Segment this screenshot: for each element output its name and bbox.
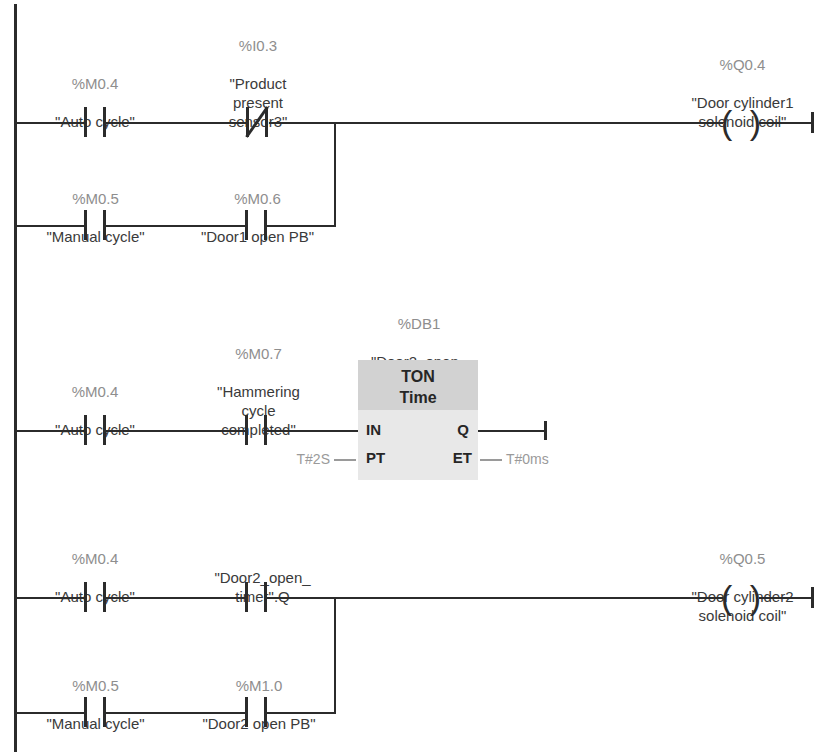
contact-bar-left (84, 107, 87, 137)
contact-address: %M0.5 (28, 189, 163, 208)
ton-et-value: T#0ms (506, 450, 566, 468)
contact-bar-left (245, 210, 248, 240)
contact-no-m06[interactable] (245, 210, 267, 240)
coil-paren-close: ) (750, 580, 761, 614)
rung1-branch-connector (334, 122, 336, 226)
coil-paren-open: ( (721, 580, 732, 614)
coil-q05[interactable]: ( ) (721, 580, 761, 614)
contact-bar-left (84, 210, 87, 240)
contact-no-m04-n3[interactable] (84, 582, 106, 612)
ton-pin-in: IN (366, 421, 381, 439)
ton-pt-value: T#2S (284, 450, 330, 468)
contact-bar-left (245, 415, 248, 445)
rung3-wire-branchnode-to-coil (334, 597, 723, 599)
rung3b-wire-rail-to-c1 (14, 712, 85, 714)
contact-nc-slash-icon (245, 106, 269, 138)
coil-address: %Q0.4 (670, 55, 815, 74)
ton-block-subtitle: Time (358, 387, 478, 408)
contact-no-m04-n2[interactable] (84, 415, 106, 445)
rung3-end-terminator (811, 587, 814, 608)
rung3-wire-c2-to-branchnode (267, 597, 336, 599)
rung3b-wire-c1-to-c2 (105, 712, 247, 714)
rung1-wire-branchnode-to-coil (334, 122, 723, 124)
rung1-wire-rail-to-c1 (14, 122, 85, 124)
contact-bar-left (84, 582, 87, 612)
contact-address: %M1.0 (185, 676, 333, 695)
rung3-wire-c1-to-c2 (105, 597, 247, 599)
rung1b-wire-rail-to-c1 (14, 225, 85, 227)
rung2-wire-q-to-end (478, 430, 546, 432)
rung3-wire-rail-to-c1 (14, 597, 85, 599)
rung1-end-terminator (811, 112, 814, 133)
rung3-branch-connector (334, 597, 336, 713)
ladder-diagram-canvas: %M0.4 "Auto cycle" %I0.3 "Product presen… (0, 0, 826, 756)
rung2-wire-rail-to-c1 (14, 430, 85, 432)
contact-bar-right (103, 582, 106, 612)
contact-address: %M0.6 (185, 189, 330, 208)
contact-no-m07[interactable] (245, 415, 267, 445)
contact-address: %I0.3 (198, 36, 318, 55)
contact-bar-right (264, 582, 267, 612)
coil-paren-open: ( (721, 105, 732, 139)
rung1b-wire-c1-to-c2 (105, 225, 247, 227)
contact-bar-right (264, 415, 267, 445)
contact-bar-left (245, 582, 248, 612)
ton-pt-wire (334, 459, 356, 461)
ton-timer-block[interactable]: TON Time IN PT Q ET (358, 360, 478, 480)
contact-address: %M0.4 (35, 74, 155, 93)
contact-no-m05-n1[interactable] (84, 210, 106, 240)
contact-bar-right (103, 107, 106, 137)
contact-no-m04-n1[interactable] (84, 107, 106, 137)
ton-pin-et: ET (453, 449, 472, 467)
ton-pin-q: Q (457, 421, 469, 439)
contact-bar-left (245, 697, 248, 727)
contact-bar-right (103, 415, 106, 445)
contact-bar-left (84, 415, 87, 445)
contact-no-m10[interactable] (245, 697, 267, 727)
ton-et-wire (480, 459, 502, 461)
contact-address: %M0.4 (35, 549, 155, 568)
rung2-wire-c1-to-c2 (105, 430, 247, 432)
rung3b-wire-c2-to-branchnode (267, 712, 336, 714)
contact-no-timer-q[interactable] (245, 582, 267, 612)
contact-nc-i03[interactable] (246, 107, 268, 137)
rung1-wire-coil-to-end (759, 122, 813, 124)
contact-bar-right (103, 697, 106, 727)
contact-address: %M0.5 (28, 676, 163, 695)
rung2-wire-c2-to-block-in (267, 430, 359, 432)
rung1b-wire-c2-to-branchnode (267, 225, 336, 227)
ton-block-title: TON (358, 366, 478, 387)
coil-q04[interactable]: ( ) (721, 105, 761, 139)
contact-address: %M0.7 (196, 344, 321, 363)
rung3-wire-coil-to-end (759, 597, 813, 599)
coil-paren-close: ) (750, 105, 761, 139)
contact-no-m05-n3[interactable] (84, 697, 106, 727)
rung1-wire-c1-to-c2 (105, 122, 247, 124)
coil-address: %Q0.5 (670, 549, 815, 568)
contact-bar-right (264, 210, 267, 240)
contact-bar-left (84, 697, 87, 727)
ton-block-header: TON Time (358, 360, 478, 410)
rung1-wire-c2-to-branchnode (269, 122, 336, 124)
block-db-number: %DB1 (355, 314, 483, 333)
contact-address: %M0.4 (35, 382, 155, 401)
contact-bar-right (264, 697, 267, 727)
rung2-end-terminator (544, 421, 547, 440)
contact-bar-right (103, 210, 106, 240)
ton-pin-pt: PT (366, 449, 385, 467)
left-power-rail (14, 4, 17, 752)
